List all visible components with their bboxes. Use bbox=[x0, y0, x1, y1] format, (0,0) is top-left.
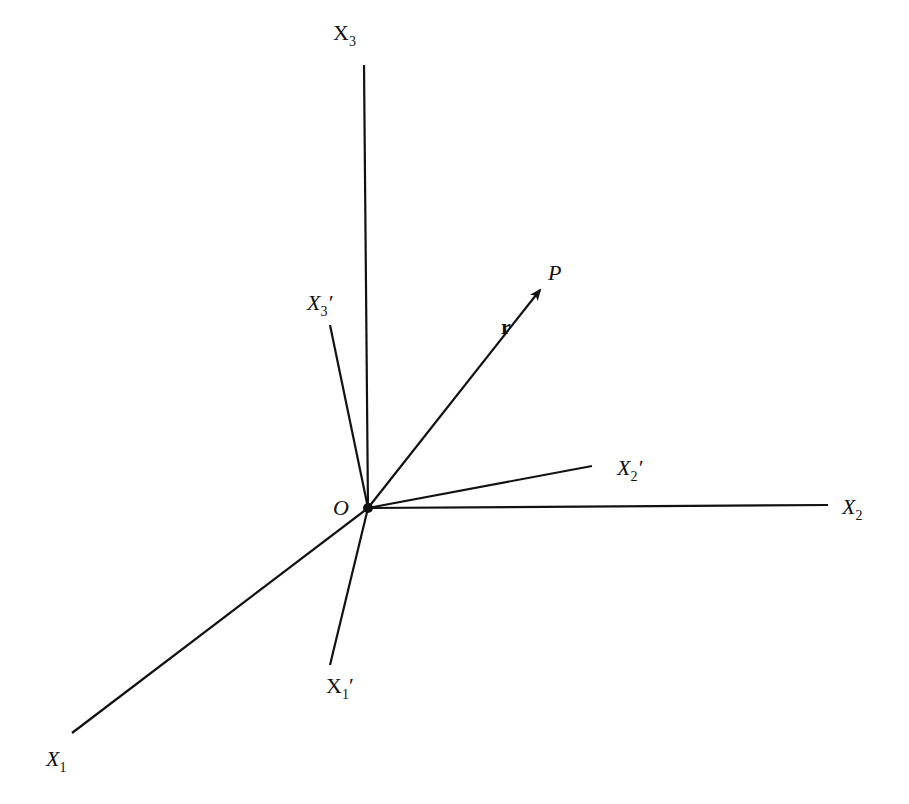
origin-label: O bbox=[333, 497, 349, 519]
axis-line-x3p bbox=[330, 325, 368, 508]
axis-label-x1: X1 bbox=[46, 748, 66, 770]
axis-line-x2 bbox=[368, 505, 828, 508]
axis-label-x1-prime: X1′ bbox=[326, 675, 354, 697]
axis-label-x3: X3 bbox=[333, 22, 356, 44]
axis-line-x3 bbox=[364, 65, 368, 508]
axis-line-x1 bbox=[72, 508, 368, 733]
axis-label-x2-prime: X2′ bbox=[617, 457, 642, 479]
axis-label-x2: X2 bbox=[842, 496, 862, 518]
position-vector-arrow bbox=[368, 290, 540, 508]
point-label-p: P bbox=[548, 262, 561, 284]
axis-label-x3-prime: X3′ bbox=[307, 292, 332, 314]
coordinate-diagram bbox=[0, 0, 909, 804]
axis-line-x2p bbox=[368, 466, 592, 508]
origin-point bbox=[363, 503, 373, 513]
vector-label-r: r bbox=[501, 316, 511, 338]
